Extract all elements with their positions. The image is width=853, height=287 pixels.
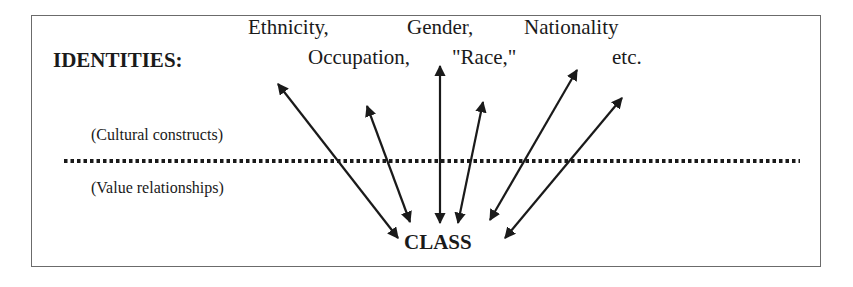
arrow-occupation (367, 106, 410, 222)
arrow-nationality (490, 70, 577, 220)
arrow-etc (505, 98, 622, 238)
arrow-ethnicity (278, 84, 398, 238)
arrows-layer (0, 0, 853, 287)
